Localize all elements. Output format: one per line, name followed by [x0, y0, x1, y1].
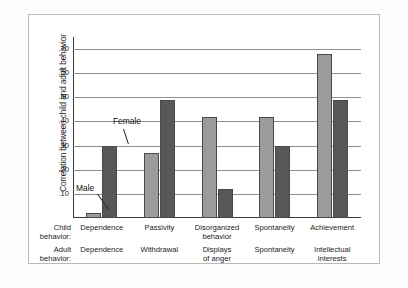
row-label-adult-line2: behavior: — [29, 254, 71, 263]
adult-behavior-line2: interests — [292, 254, 372, 263]
adult-behavior-label: Intellectualinterests — [292, 245, 372, 264]
bar-female — [102, 146, 117, 218]
legend-label-female: Female — [113, 116, 141, 126]
bar-male — [86, 213, 101, 218]
y-axis-tick-label: .70 — [47, 44, 69, 53]
bar-group — [144, 37, 175, 218]
y-axis-tick-label: .30 — [47, 141, 69, 150]
bar-female — [275, 146, 290, 218]
bar-male — [202, 117, 217, 218]
plot-area: .10.20.30.40.50.60.70 Female Male — [73, 37, 361, 218]
y-axis-title: Correlation between child and adult beha… — [35, 0, 49, 15]
y-axis-tick-label: .10 — [47, 189, 69, 198]
y-axis-tick-label: .20 — [47, 165, 69, 174]
y-axis-tick-label: .60 — [47, 68, 69, 77]
child-behavior-line2: behavior — [177, 232, 257, 241]
child-behavior-label: Achievement — [292, 223, 372, 232]
bar-group — [202, 37, 233, 218]
legend-label-male: Male — [76, 183, 94, 193]
bar-group — [259, 37, 290, 218]
bar-female — [333, 100, 348, 218]
y-axis-tick-label: .50 — [47, 92, 69, 101]
leader-line-female — [123, 129, 129, 145]
y-axis-line — [73, 37, 74, 218]
bar-male — [259, 117, 274, 218]
row-label-child-line2: behavior: — [29, 232, 71, 241]
bar-female — [160, 100, 175, 218]
bar-male — [144, 153, 159, 218]
adult-behavior-line2: of anger — [177, 254, 257, 263]
bar-male — [317, 54, 332, 218]
chart-figure: Correlation between child and adult beha… — [28, 14, 380, 264]
bar-female — [218, 189, 233, 218]
y-axis-tick-label: .40 — [47, 116, 69, 125]
bar-group — [317, 37, 348, 218]
child-behavior-line1: Achievement — [292, 223, 372, 232]
adult-behavior-line1: Intellectual — [292, 245, 372, 254]
